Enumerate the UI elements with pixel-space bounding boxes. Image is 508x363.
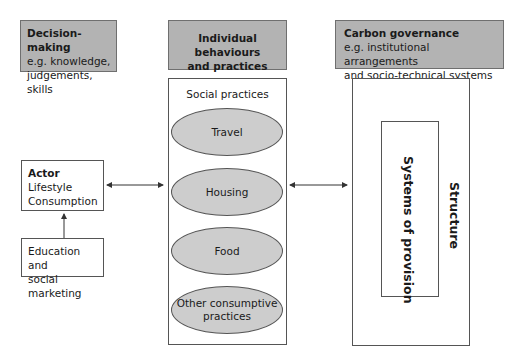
connector-arrows xyxy=(0,0,508,363)
